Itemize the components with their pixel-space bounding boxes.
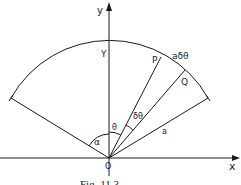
left-radius xyxy=(11,98,109,158)
delta-theta-angle-arc xyxy=(126,125,133,130)
left-end-tick xyxy=(9,95,13,101)
right-radius xyxy=(109,98,208,158)
theta-label: θ xyxy=(112,123,117,132)
sector-diagram: y x O Y P Q aδθ θ δθ a α Fig. 11.3 xyxy=(0,0,241,185)
arc-length-label: aδθ xyxy=(172,51,189,61)
point-p-label: P xyxy=(152,55,158,65)
point-q-label: Q xyxy=(181,77,188,87)
y-axis-label: y xyxy=(97,5,103,16)
theta-angle-arc xyxy=(109,132,121,135)
origin-label: O xyxy=(105,162,111,171)
figure-caption: Fig. 11.3 xyxy=(80,178,120,185)
radius-a-label: a xyxy=(162,127,167,136)
y-axis-arrow-icon xyxy=(106,2,112,11)
delta-theta-label: δθ xyxy=(133,112,143,121)
point-y-label: Y xyxy=(100,49,107,59)
right-end-tick xyxy=(206,95,210,101)
x-axis-label: x xyxy=(229,160,236,173)
alpha-label: α xyxy=(94,137,100,147)
